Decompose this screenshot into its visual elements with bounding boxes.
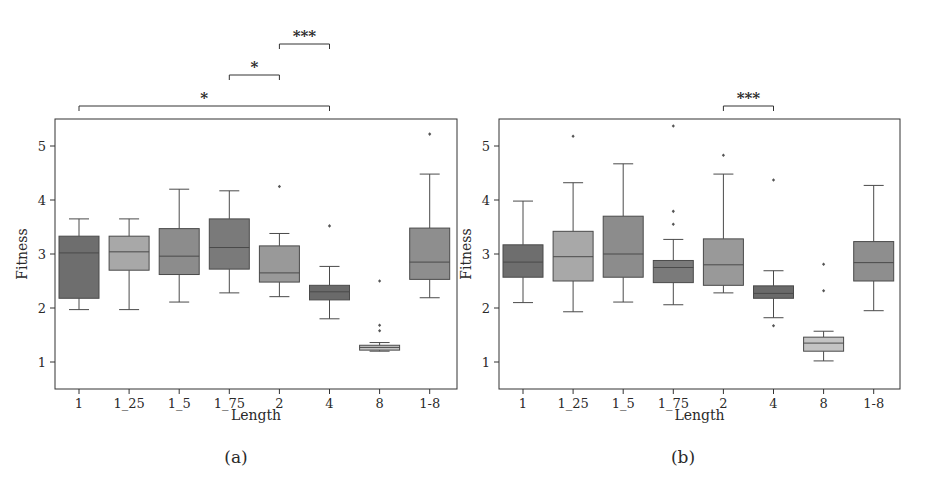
y-tick-label: 2 <box>38 301 46 316</box>
boxplot-panel-a: 12345Fitness11_251_51_752481-8Length****… <box>14 27 457 467</box>
box-1-8 <box>410 132 450 297</box>
box-1_25 <box>109 219 149 310</box>
x-tick-label: 1_5 <box>612 396 635 411</box>
box-2 <box>703 153 743 293</box>
x-tick-label: 1-8 <box>419 396 440 411</box>
box-1 <box>59 219 99 310</box>
box-1_25 <box>553 134 593 311</box>
significance-bracket: *** <box>723 89 773 111</box>
significance-bracket: * <box>229 58 279 80</box>
significance-label: *** <box>293 27 317 45</box>
x-tick-label: 4 <box>769 396 777 411</box>
outlier-point <box>378 329 381 333</box>
y-axis-label: Fitness <box>458 228 474 280</box>
x-tick-label: 1_25 <box>557 396 588 411</box>
x-tick-label: 1_5 <box>168 396 191 411</box>
x-tick-label: 1-8 <box>863 396 884 411</box>
box-4 <box>310 224 350 319</box>
box-1_75 <box>209 191 249 293</box>
box-8 <box>360 279 400 351</box>
x-axis-label: Length <box>674 407 724 423</box>
significance-bracket: *** <box>279 27 329 49</box>
significance-bracket: * <box>79 89 330 111</box>
significance-label: * <box>200 89 208 107</box>
box-8 <box>804 262 844 360</box>
y-tick-label: 4 <box>38 193 46 208</box>
y-tick-label: 1 <box>482 355 490 370</box>
outlier-point <box>278 185 281 189</box>
box-1_5 <box>159 189 199 302</box>
figure: 12345Fitness11_251_51_752481-8Length****… <box>0 0 928 497</box>
outlier-point <box>722 153 725 157</box>
y-tick-label: 4 <box>482 193 490 208</box>
x-tick-label: 4 <box>325 396 333 411</box>
y-tick-label: 3 <box>482 247 490 262</box>
outlier-point <box>772 178 775 182</box>
box-1-8 <box>854 185 894 310</box>
y-tick-label: 3 <box>38 247 46 262</box>
outlier-point <box>772 324 775 328</box>
box-2 <box>259 185 299 297</box>
outlier-point <box>672 124 675 128</box>
panel-caption: (a) <box>224 447 247 467</box>
x-tick-label: 8 <box>375 396 383 411</box>
box-1 <box>503 201 543 303</box>
y-axis-label: Fitness <box>14 228 30 280</box>
outlier-point <box>822 289 825 293</box>
y-tick-label: 2 <box>482 301 490 316</box>
y-tick-label: 1 <box>38 355 46 370</box>
outlier-point <box>378 323 381 327</box>
x-tick-label: 1 <box>75 396 83 411</box>
y-tick-label: 5 <box>482 139 490 154</box>
outlier-point <box>378 279 381 283</box>
x-axis-label: Length <box>231 407 281 423</box>
outlier-point <box>328 224 331 228</box>
x-tick-label: 8 <box>819 396 827 411</box>
panel-caption: (b) <box>671 447 695 467</box>
box-1_75 <box>653 124 693 305</box>
outlier-point <box>672 210 675 214</box>
outlier-point <box>428 132 431 136</box>
significance-label: * <box>250 58 258 76</box>
boxplot-panel-b: 12345Fitness11_251_51_752481-8Length***(… <box>458 89 900 467</box>
box-1_5 <box>603 164 643 302</box>
x-tick-label: 1_25 <box>113 396 144 411</box>
significance-label: *** <box>737 89 761 107</box>
outlier-point <box>672 223 675 227</box>
y-tick-label: 5 <box>38 139 46 154</box>
outlier-point <box>572 134 575 138</box>
box-4 <box>754 178 794 327</box>
x-tick-label: 1 <box>519 396 527 411</box>
outlier-point <box>822 262 825 266</box>
